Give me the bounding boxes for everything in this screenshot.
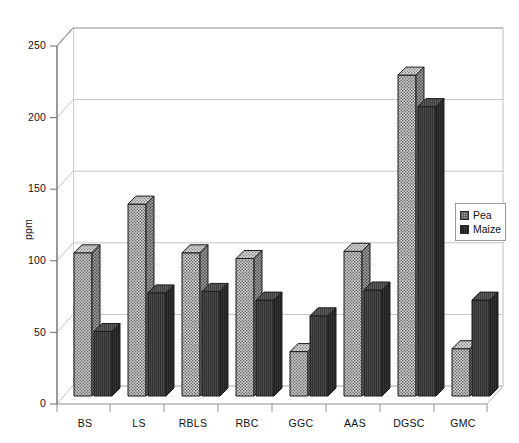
- maize-pattern-swatch: [460, 225, 469, 234]
- bars-layer: [0, 0, 519, 443]
- chart-container: 250 200 150 100 50 0 ppm: [0, 0, 519, 443]
- x-tick-label-AAS: AAS: [328, 417, 382, 429]
- legend-label-pea: Pea: [473, 210, 492, 221]
- x-tick-label-DGSC: DGSC: [382, 417, 436, 429]
- pea-pattern-swatch: [460, 211, 469, 220]
- legend-item-pea[interactable]: Pea: [460, 209, 500, 222]
- legend-label-maize: Maize: [473, 224, 501, 235]
- x-tick-label-GGC: GGC: [274, 417, 328, 429]
- x-tick-label-RBC: RBC: [220, 417, 274, 429]
- legend-item-maize[interactable]: Maize: [460, 223, 500, 236]
- x-tick-label-BS: BS: [58, 417, 112, 429]
- x-tick-label-RBLS: RBLS: [166, 417, 220, 429]
- chart-legend: Pea Maize: [455, 203, 506, 241]
- x-tick-label-GMC: GMC: [436, 417, 490, 429]
- x-tick-label-LS: LS: [112, 417, 166, 429]
